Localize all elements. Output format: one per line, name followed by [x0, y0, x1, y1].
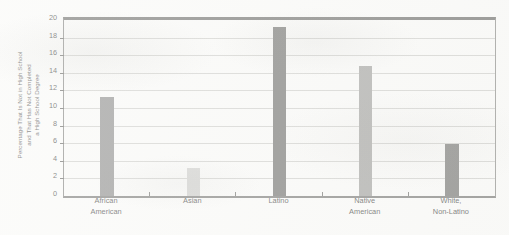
bar-african-american: [100, 97, 114, 196]
chart-figure: Percentage That Is Not in High School an…: [0, 0, 509, 235]
plot-area: [63, 17, 496, 198]
y-tick-label-12: 12: [37, 83, 57, 92]
y-tick-mark-12: [60, 90, 64, 91]
y-tick-label-18: 18: [37, 31, 57, 40]
x-label-line: Non-Latino: [408, 207, 494, 218]
x-axis-label-latino: Latino: [235, 196, 321, 207]
y-tick-label-6: 6: [37, 136, 57, 145]
y-tick-mark-16: [60, 55, 64, 56]
bar-native-american: [359, 66, 373, 196]
y-tick-mark-18: [60, 38, 64, 39]
x-label-line: Asian: [149, 196, 235, 207]
x-label-line: American: [322, 207, 408, 218]
y-tick-mark-14: [60, 73, 64, 74]
x-label-line: African: [63, 196, 149, 207]
x-tick-mark-3: [408, 192, 409, 196]
x-axis-label-native-american: NativeAmerican: [322, 196, 408, 217]
y-tick-label-0: 0: [37, 189, 57, 198]
y-tick-label-20: 20: [37, 13, 57, 22]
y-tick-label-2: 2: [37, 171, 57, 180]
y-axis-title-line-1: Percentage That Is Not in High School: [16, 14, 25, 196]
x-tick-mark-1: [235, 192, 236, 196]
y-tick-label-8: 8: [37, 119, 57, 128]
bar-asian: [187, 168, 201, 196]
y-tick-mark-10: [60, 108, 64, 109]
y-tick-mark-6: [60, 143, 64, 144]
x-label-line: Native: [322, 196, 408, 207]
x-tick-mark-2: [322, 192, 323, 196]
bar-latino: [273, 27, 287, 196]
x-axis-label-asian: Asian: [149, 196, 235, 207]
x-axis-labels: AfricanAmericanAsianLatinoNativeAmerican…: [63, 196, 494, 232]
y-axis-title-line-2: and That Has Not Completed: [25, 14, 34, 196]
x-axis-label-african-american: AfricanAmerican: [63, 196, 149, 217]
y-tick-mark-4: [60, 161, 64, 162]
x-label-line: Latino: [235, 196, 321, 207]
y-tick-label-10: 10: [37, 101, 57, 110]
y-tick-label-16: 16: [37, 48, 57, 57]
y-tick-mark-2: [60, 178, 64, 179]
y-tick-label-4: 4: [37, 154, 57, 163]
x-label-line: American: [63, 207, 149, 218]
x-label-line: White,: [408, 196, 494, 207]
x-axis-label-white-non-latino: White,Non-Latino: [408, 196, 494, 217]
x-tick-mark-0: [149, 192, 150, 196]
y-tick-label-14: 14: [37, 66, 57, 75]
bar-white-non-latino: [445, 144, 459, 196]
y-tick-mark-8: [60, 126, 64, 127]
